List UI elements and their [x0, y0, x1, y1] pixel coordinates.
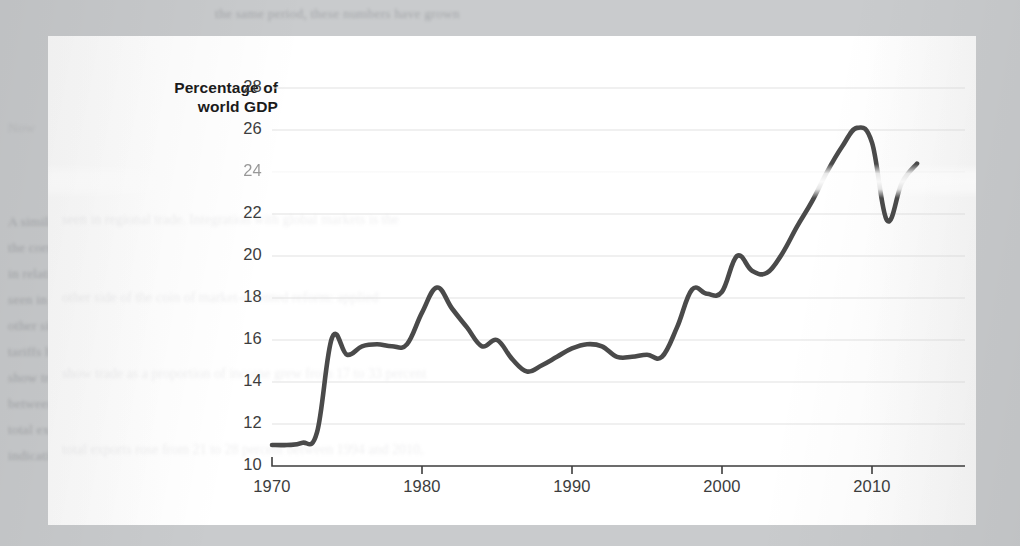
y-tick-label: 18 [228, 287, 262, 306]
y-tick-label: 10 [228, 455, 262, 474]
y-tick-label: 26 [228, 119, 262, 138]
y-tick-label: 24 [228, 161, 262, 180]
data-line [272, 127, 917, 445]
x-tick-label: 2010 [837, 477, 907, 496]
page-text-top: the same period, these numbers have grow… [215, 4, 460, 24]
y-tick-label: 14 [228, 371, 262, 390]
y-tick-label: 12 [228, 413, 262, 432]
x-tick-label: 2000 [687, 477, 757, 496]
y-tick-label: 22 [228, 203, 262, 222]
chart-plot [48, 36, 976, 525]
page-text-left-1: Now [8, 118, 35, 138]
x-tick-label: 1980 [387, 477, 457, 496]
gridlines [272, 88, 965, 424]
x-axis-line [272, 457, 965, 466]
book-page-photo: the same period, these numbers have grow… [0, 0, 1020, 546]
line-chart: Percentage of world GDP 1012141618202224… [48, 36, 976, 525]
y-tick-label: 28 [228, 77, 262, 96]
y-tick-label: 16 [228, 329, 262, 348]
x-tick-label: 1990 [537, 477, 607, 496]
y-tick-label: 20 [228, 245, 262, 264]
x-tick-label: 1970 [237, 477, 307, 496]
figure-card: seen in regional trade. Integration with… [48, 36, 976, 525]
x-tick-marks [422, 466, 872, 474]
